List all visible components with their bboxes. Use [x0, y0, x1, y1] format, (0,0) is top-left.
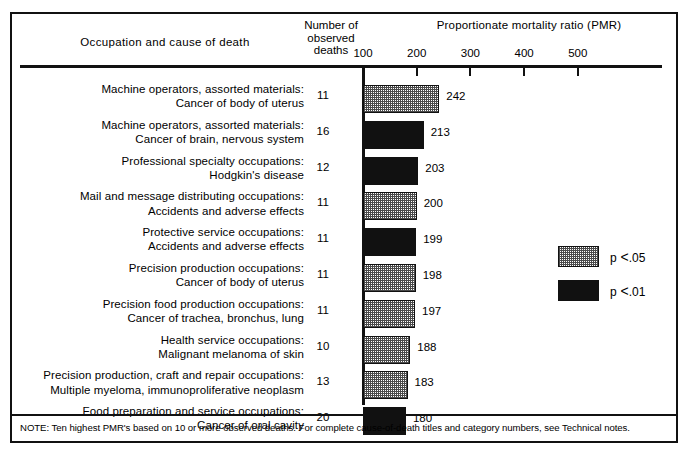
- row-label: Professional specialty occupations:Hodgk…: [20, 154, 304, 182]
- bar-value-label: 213: [431, 126, 450, 138]
- row-label: Health service occupations:Malignant mel…: [20, 333, 304, 361]
- bar-p-lt-05: [363, 371, 408, 399]
- bar-p-lt-05: [363, 192, 417, 220]
- figure-frame: Occupation and cause of death Number of …: [10, 12, 678, 443]
- chart-legend: p <.05p <.01: [558, 246, 668, 314]
- legend-threshold-value: .01: [629, 285, 646, 299]
- row-observed-deaths: 10: [308, 340, 338, 352]
- row-observed-deaths: 16: [308, 125, 338, 137]
- row-label: Precision food production occupations:Ca…: [20, 297, 304, 325]
- bar-p-lt-01: [363, 121, 424, 149]
- bar-p-lt-01: [363, 228, 416, 256]
- legend-swatch-p-lt-05: [558, 246, 599, 267]
- chart-row: Professional specialty occupations:Hodgk…: [12, 154, 676, 188]
- x-axis-tick-label-400: 400: [515, 47, 534, 59]
- row-occupation: Health service occupations:: [20, 333, 304, 347]
- x-axis-tick-label-500: 500: [568, 47, 587, 59]
- row-cause-of-death: Accidents and adverse effects: [20, 204, 304, 218]
- x-axis-tick-label-200: 200: [407, 47, 426, 59]
- row-label: Machine operators, assorted materials:Ca…: [20, 82, 304, 110]
- legend-label: p <.01: [610, 283, 645, 299]
- bar-value-label: 188: [417, 341, 436, 353]
- column-header-deaths-line1: Number of: [298, 19, 364, 32]
- bar-p-lt-05: [363, 264, 416, 292]
- row-occupation: Precision production, craft and repair o…: [20, 368, 304, 382]
- row-cause-of-death: Cancer of body of uterus: [20, 275, 304, 289]
- figure-note: NOTE: Ten highest PMR's based on 10 or m…: [20, 422, 668, 433]
- row-label: Precision production, craft and repair o…: [20, 368, 304, 396]
- row-cause-of-death: Cancer of trachea, bronchus, lung: [20, 311, 304, 325]
- legend-less-than-icon: <: [617, 283, 629, 299]
- legend-threshold-value: .05: [629, 251, 646, 265]
- row-observed-deaths: 13: [308, 375, 338, 387]
- row-cause-of-death: Multiple myeloma, immunoproliferative ne…: [20, 383, 304, 397]
- chart-row: Machine operators, assorted materials:Ca…: [12, 118, 676, 152]
- row-occupation: Precision food production occupations:: [20, 297, 304, 311]
- row-cause-of-death: Cancer of body of uterus: [20, 96, 304, 110]
- chart-row: Health service occupations:Malignant mel…: [12, 333, 676, 367]
- row-label: Mail and message distributing occupation…: [20, 189, 304, 217]
- chart-plot-area: Machine operators, assorted materials:Ca…: [12, 68, 676, 413]
- row-occupation: Precision production occupations:: [20, 261, 304, 275]
- x-axis-tick-label-300: 300: [461, 47, 480, 59]
- x-axis-tick-labels: 100200300400500: [12, 47, 676, 62]
- x-axis-tick-label-100: 100: [353, 47, 372, 59]
- row-observed-deaths: 11: [308, 268, 338, 280]
- row-cause-of-death: Hodgkin's disease: [20, 168, 304, 182]
- column-header-deaths-line2: observed: [298, 32, 364, 45]
- note-divider: [12, 414, 676, 416]
- row-cause-of-death: Cancer of brain, nervous system: [20, 132, 304, 146]
- bar-value-label: 183: [415, 376, 434, 388]
- row-label: Precision production occupations:Cancer …: [20, 261, 304, 289]
- bar-p-lt-01: [363, 157, 418, 185]
- row-occupation: Machine operators, assorted materials:: [20, 82, 304, 96]
- chart-row: Precision production, craft and repair o…: [12, 368, 676, 402]
- row-occupation: Professional specialty occupations:: [20, 154, 304, 168]
- legend-label: p <.05: [610, 249, 645, 265]
- x-axis-title: Proportionate mortality ratio (PMR): [384, 19, 674, 31]
- row-cause-of-death: Accidents and adverse effects: [20, 239, 304, 253]
- bar-value-label: 200: [424, 197, 443, 209]
- row-occupation: Protective service occupations:: [20, 225, 304, 239]
- bar-value-label: 198: [423, 269, 442, 281]
- chart-row: Machine operators, assorted materials:Ca…: [12, 82, 676, 116]
- bar-p-lt-05: [363, 336, 410, 364]
- row-observed-deaths: 11: [308, 89, 338, 101]
- bar-p-lt-05: [363, 85, 439, 113]
- row-observed-deaths: 12: [308, 161, 338, 173]
- bar-value-label: 199: [423, 233, 442, 245]
- bar-p-lt-05: [363, 300, 415, 328]
- bar-value-label: 203: [425, 162, 444, 174]
- row-label: Machine operators, assorted materials:Ca…: [20, 118, 304, 146]
- legend-less-than-icon: <: [617, 249, 629, 265]
- legend-swatch-p-lt-01: [558, 280, 599, 301]
- row-cause-of-death: Malignant melanoma of skin: [20, 347, 304, 361]
- row-label: Protective service occupations:Accidents…: [20, 225, 304, 253]
- row-occupation: Food preparation and service occupations…: [20, 404, 304, 418]
- chart-row: Mail and message distributing occupation…: [12, 189, 676, 223]
- legend-p-symbol: p: [610, 285, 617, 299]
- legend-p-symbol: p: [610, 251, 617, 265]
- bar-value-label: 242: [446, 90, 465, 102]
- bar-value-label: 197: [422, 305, 441, 317]
- row-observed-deaths: 11: [308, 232, 338, 244]
- row-observed-deaths: 11: [308, 196, 338, 208]
- row-occupation: Mail and message distributing occupation…: [20, 189, 304, 203]
- legend-item: p <.05: [558, 246, 668, 280]
- row-occupation: Machine operators, assorted materials:: [20, 118, 304, 132]
- row-observed-deaths: 11: [308, 304, 338, 316]
- legend-item: p <.01: [558, 280, 668, 314]
